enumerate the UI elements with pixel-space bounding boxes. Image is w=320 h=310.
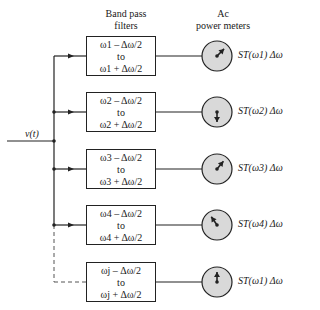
meter-pivot xyxy=(215,54,219,58)
band-pass-filter-1: ω1 – Δω/2toω1 + Δω/2 xyxy=(86,36,156,76)
filter-upper-bound: ω1 + Δω/2 xyxy=(87,63,155,75)
arrow-icon xyxy=(68,167,74,172)
arrow-icon xyxy=(68,110,74,115)
arrow-icon xyxy=(68,54,74,59)
filter-upper-bound: ωj + Δω/2 xyxy=(87,289,155,301)
band-pass-filter-3: ω3 – Δω/2toω3 + Δω/2 xyxy=(86,149,156,189)
filter-lower-bound: ωj – Δω/2 xyxy=(87,265,155,277)
meter-output-label: ST(ω1) Δω xyxy=(238,49,283,60)
meter-pivot xyxy=(215,110,219,114)
meters-header-line2: power meters xyxy=(188,20,258,32)
filters-header: Band pass filters xyxy=(96,8,156,32)
filter-lower-bound: ω1 – Δω/2 xyxy=(87,39,155,51)
filter-middle-bound: to xyxy=(87,220,155,232)
meter-output-label: ST(ω4) Δω xyxy=(238,218,283,229)
band-pass-filter-2: ω2 – Δω/2toω2 + Δω/2 xyxy=(86,92,156,132)
meter-output-label: ST(ω2) Δω xyxy=(238,105,283,116)
meter-pivot xyxy=(215,167,219,171)
junction-dot xyxy=(52,223,56,227)
band-pass-filter-4: ω4 – Δω/2toω4 + Δω/2 xyxy=(86,205,156,245)
filter-middle-bound: to xyxy=(87,107,155,119)
junction-dot xyxy=(52,110,56,114)
filter-middle-bound: to xyxy=(87,51,155,63)
meters-header-line1: Ac xyxy=(188,8,258,20)
filters-header-line1: Band pass xyxy=(96,8,156,20)
filter-lower-bound: ω2 – Δω/2 xyxy=(87,95,155,107)
filter-middle-bound: to xyxy=(87,164,155,176)
meter-pivot xyxy=(215,223,219,227)
band-pass-filter-5: ωj – Δω/2toωj + Δω/2 xyxy=(86,262,156,302)
filters-header-line2: filters xyxy=(96,20,156,32)
filter-middle-bound: to xyxy=(87,277,155,289)
meters-header: Ac power meters xyxy=(188,8,258,32)
filter-upper-bound: ω4 + Δω/2 xyxy=(87,232,155,244)
meter-output-label: ST(ω1) Δω xyxy=(238,275,283,286)
meter-pivot xyxy=(215,280,219,284)
filter-lower-bound: ω4 – Δω/2 xyxy=(87,208,155,220)
input-signal-label: v(t) xyxy=(25,128,39,139)
filter-upper-bound: ω3 + Δω/2 xyxy=(87,176,155,188)
arrow-icon xyxy=(68,223,74,228)
filter-upper-bound: ω2 + Δω/2 xyxy=(87,119,155,131)
filter-lower-bound: ω3 – Δω/2 xyxy=(87,152,155,164)
meter-output-label: ST(ω3) Δω xyxy=(238,162,283,173)
junction-dot xyxy=(52,167,56,171)
